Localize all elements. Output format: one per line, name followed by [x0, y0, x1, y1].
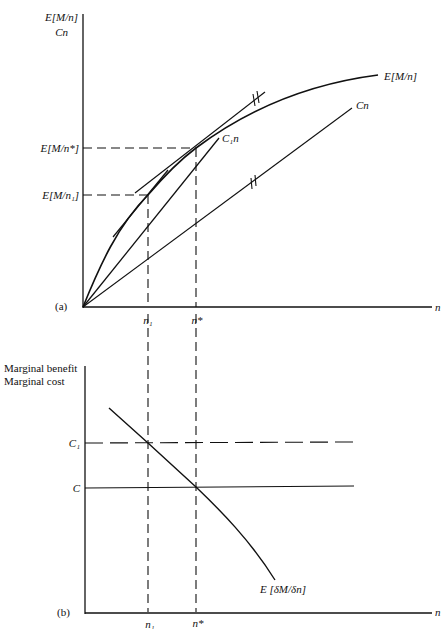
panel-b-xtick-nstar: n* [193, 617, 205, 629]
panel-a-ylabel-2: Cn [55, 26, 68, 38]
panel-b-ylabel-1: Marginal benefit [4, 362, 77, 374]
marginal-benefit-curve [109, 408, 275, 580]
panel-b-ytick-c1: C₁ [69, 437, 80, 449]
panel-a: E[M/n] Cn E[M/n*] E[M/n₁] [40, 11, 442, 612]
panel-b-xtick-n1: n₁ [145, 618, 155, 629]
panel-b-xlabel: n [435, 606, 441, 618]
c1n-label: C₁n [222, 132, 239, 144]
panel-a-guides [83, 148, 196, 612]
c1n-line [83, 138, 219, 307]
panel-b-ytick-c: C [73, 482, 81, 494]
expected-value-curve [83, 75, 378, 307]
panel-a-ytick-n1: E[M/n₁] [41, 189, 79, 201]
panel-b-ylabel-2: Marginal cost [4, 375, 65, 387]
panel-b: Marginal benefit Marginal cost C₁ C E [δ… [4, 362, 441, 629]
panel-a-tag: (a) [55, 300, 68, 313]
cn-label: Cn [356, 99, 369, 111]
expected-value-label: E[M/n] [383, 70, 417, 82]
tangent-n1 [113, 170, 168, 237]
figure: E[M/n] Cn E[M/n*] E[M/n₁] [0, 0, 445, 629]
panel-a-xtick-nstar: n* [192, 314, 204, 326]
tangent-nstar [135, 92, 265, 193]
panel-a-ytick-nstar: E[M/n*] [40, 142, 80, 154]
panel-a-xtick-n1: n₁ [143, 314, 153, 326]
parallel-marks [251, 91, 259, 189]
panel-b-tag: (b) [57, 606, 70, 619]
panel-a-ylabel-1: E[M/n] [44, 11, 78, 23]
c1-line [85, 442, 354, 443]
c-line [85, 486, 354, 488]
cn-line [83, 108, 352, 307]
marginal-benefit-label: E [δM/δn] [259, 583, 306, 595]
panel-a-xlabel: n [435, 301, 441, 313]
